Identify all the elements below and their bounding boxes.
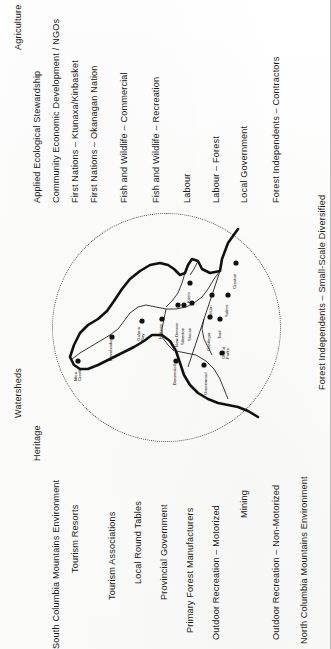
city-dot-nelson bbox=[209, 292, 214, 297]
sector-label-labour-forest: Labour – Forest bbox=[212, 136, 221, 203]
city-label-revelstoke: Revelstoke bbox=[109, 339, 114, 361]
sector-label-tourism-associations: Tourism Associations bbox=[108, 511, 117, 600]
sector-label-watersheds: Watersheds bbox=[14, 368, 23, 418]
sector-label-outdoor-recreation-motorized: Outdoor Recreation – Motorized bbox=[212, 505, 221, 640]
city-label-galena-bay-line2: Bay bbox=[141, 327, 145, 341]
city-label-castlegar: Castlegar bbox=[207, 332, 212, 351]
region-boundary-outline bbox=[70, 229, 258, 417]
city-label-slocan: Slocan bbox=[188, 328, 193, 341]
sector-label-fish-and-wildlife-recreation: Fish and Wildlife – Recreation bbox=[152, 77, 161, 203]
city-dot-new-denver bbox=[175, 302, 180, 307]
subregion-divider-arrow-lakes bbox=[190, 261, 198, 275]
sector-label-north-columbia-mountains-environment: North Columbia Mountains Environment bbox=[300, 476, 309, 644]
city-label-mica-creek: Mica Creek bbox=[74, 369, 83, 381]
city-label-salmo: Salmo bbox=[225, 305, 230, 317]
city-label-nakusp: Nakusp bbox=[159, 324, 164, 339]
city-dot-silverton bbox=[181, 302, 186, 307]
city-dot-kaslo bbox=[187, 280, 192, 285]
sector-label-heritage: Heritage bbox=[33, 425, 42, 461]
sector-label-community-economic-development-ngos: Community Economic Development / NGOs bbox=[52, 19, 61, 203]
subregion-divider-north bbox=[72, 271, 220, 359]
sector-label-provincial-government: Provincial Government bbox=[160, 504, 169, 600]
sector-label-applied-ecological-stewardship: Applied Ecological Stewardship bbox=[33, 71, 42, 203]
subregion-divider-central bbox=[166, 273, 185, 307]
city-label-trail: Trail bbox=[218, 331, 223, 339]
city-label-beaverdell: Beaverdell bbox=[173, 364, 178, 385]
sector-label-agriculture: Agriculture bbox=[14, 5, 23, 50]
sector-label-tourism-resorts: Tourism Resorts bbox=[71, 505, 80, 573]
city-label-new-denver: New Denver bbox=[175, 323, 180, 347]
city-dot-creston bbox=[233, 260, 238, 265]
city-dot-nakusp bbox=[159, 316, 164, 321]
city-dot-greenwood bbox=[201, 362, 206, 367]
region-map: Mica Creek Revelstoke Galena Bay Nakusp … bbox=[52, 213, 281, 442]
sector-label-first-nations-ktunaxa-kinbasket: First Nations – Ktunaxa/Kinbasket bbox=[71, 60, 80, 203]
diagram-page: Agriculture Watersheds Applied Ecologica… bbox=[0, 0, 331, 649]
sector-label-forest-independents-small-scale-diversified: Forest Independents – Small-Scale Divers… bbox=[318, 195, 327, 390]
sector-label-local-round-tables: Local Round Tables bbox=[134, 501, 143, 584]
city-label-silverton: Silverton bbox=[181, 328, 186, 345]
city-label-mica-creek-line2: Creek bbox=[78, 369, 82, 381]
city-label-grand-forks: Grand Forks bbox=[222, 347, 231, 359]
city-label-kaslo: Kaslo bbox=[187, 292, 192, 303]
sector-label-forest-independents-contractors: Forest Independents – Contractors bbox=[272, 56, 281, 203]
sector-label-outdoor-recreation-non-motorized: Outdoor Recreation – Non-Motorized bbox=[272, 485, 281, 640]
sector-label-fish-and-wildlife-commercial: Fish and Wildlife – Commercial bbox=[120, 72, 129, 203]
sector-label-primary-forest-manufacturers: Primary Forest Manufacturers bbox=[186, 508, 195, 633]
city-label-greenwood: Greenwood bbox=[204, 372, 209, 395]
city-dot-galena-bay bbox=[139, 318, 144, 323]
city-label-galena-bay: Galena Bay bbox=[137, 327, 146, 341]
sector-label-first-nations-okanagan-nation: First Nations – Okanagan Nation bbox=[90, 65, 99, 203]
city-label-creston: Creston bbox=[233, 274, 238, 289]
city-dot-trail bbox=[217, 316, 222, 321]
sector-label-labour: Labour bbox=[183, 174, 192, 203]
sector-label-local-government: Local Government bbox=[240, 126, 249, 203]
region-map-svg bbox=[52, 213, 281, 442]
sector-label-south-columbia-mountains-environment: South Columbia Mountains Environment bbox=[52, 480, 61, 649]
city-label-nelson: Nelson bbox=[209, 305, 214, 319]
city-dot-beaverdell bbox=[173, 358, 178, 363]
city-label-grand-forks-line2: Forks bbox=[226, 347, 230, 359]
city-dot-mica-creek bbox=[75, 358, 80, 363]
city-dot-salmo bbox=[225, 292, 230, 297]
sector-label-mining: Mining bbox=[240, 490, 249, 518]
